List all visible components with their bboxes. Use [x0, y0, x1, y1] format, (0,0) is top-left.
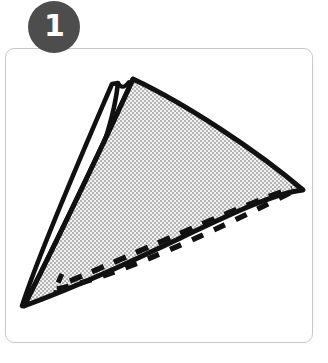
step-number-label: 1 — [44, 11, 64, 41]
figure-root: 1 — [0, 0, 328, 363]
top-peak-notch — [118, 82, 129, 87]
step-number-badge: 1 — [28, 1, 80, 53]
folded-fabric-illustration — [0, 0, 328, 363]
